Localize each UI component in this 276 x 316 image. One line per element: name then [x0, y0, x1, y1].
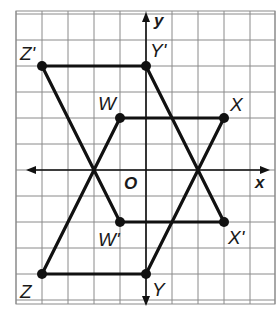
point-label: X': [227, 227, 246, 248]
point-w-prime: [115, 217, 125, 227]
point-z: [37, 269, 47, 279]
origin-label: O: [124, 174, 137, 193]
point-y-prime: [141, 61, 151, 71]
y-axis-label: y: [153, 11, 165, 30]
point-label: Y': [150, 40, 168, 61]
axes: xyO: [26, 11, 270, 306]
coordinate-plane: xyOZ'Y'WXW'X'ZY: [0, 0, 276, 316]
points: Z'Y'WXW'X'ZY: [19, 40, 246, 302]
point-label: Y: [152, 279, 166, 300]
point-y: [141, 269, 151, 279]
point-x-prime: [219, 217, 229, 227]
point-label: W': [98, 229, 121, 250]
point-label: Z: [19, 281, 33, 302]
point-z-prime: [37, 61, 47, 71]
point-label: W: [98, 93, 118, 114]
point-x: [219, 113, 229, 123]
point-w: [115, 113, 125, 123]
point-label: Z': [19, 43, 37, 64]
x-axis-arrow-icon: [26, 166, 36, 174]
x-axis-label: x: [254, 173, 266, 192]
point-label: X: [229, 94, 244, 115]
